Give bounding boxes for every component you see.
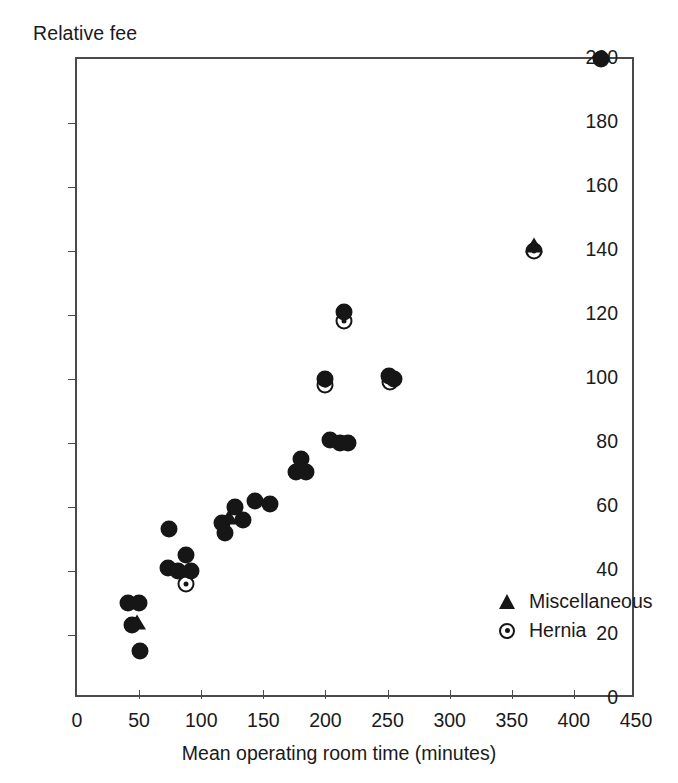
- data-point-filled-circle: [336, 303, 353, 320]
- data-point-filled-circle: [178, 547, 195, 564]
- y-axis-label: Relative fee: [33, 22, 137, 45]
- legend-label-miscellaneous: Miscellaneous: [529, 590, 653, 613]
- x-tick-label: 0: [72, 709, 83, 732]
- x-tick-label: 200: [309, 709, 342, 732]
- data-point-filled-circle: [131, 595, 148, 612]
- legend-item-miscellaneous: Miscellaneous: [495, 587, 653, 616]
- y-tick-label: 120: [585, 302, 618, 325]
- x-tick-label: 100: [185, 709, 218, 732]
- data-point-filled-circle: [593, 51, 610, 68]
- x-tick-mark: [325, 690, 326, 699]
- data-point-filled-circle: [261, 495, 278, 512]
- x-tick-label: 350: [495, 709, 528, 732]
- data-point-filled-circle: [216, 524, 233, 541]
- data-point-triangle: [220, 509, 238, 524]
- legend-label-hernia: Hernia: [529, 619, 586, 642]
- y-tick-label: 140: [585, 238, 618, 261]
- x-tick-mark: [263, 690, 264, 699]
- y-tick-label: 100: [585, 366, 618, 389]
- y-tick-label: 160: [585, 174, 618, 197]
- x-tick-mark: [388, 690, 389, 699]
- x-axis-label: Mean operating room time (minutes): [0, 742, 678, 765]
- data-point-filled-circle: [183, 563, 200, 580]
- y-tick-label: 40: [596, 558, 618, 581]
- y-tick-mark: [68, 507, 77, 508]
- data-point-filled-circle: [160, 521, 177, 538]
- circle-dot-marker-icon: [495, 623, 519, 639]
- y-tick-mark: [68, 379, 77, 380]
- x-tick-label: 250: [371, 709, 404, 732]
- data-point-filled-circle: [339, 435, 356, 452]
- y-tick-mark: [68, 635, 77, 636]
- plot-area: 020406080100120140160180200 050100150200…: [75, 57, 634, 697]
- triangle-marker-icon: [495, 594, 519, 609]
- data-point-filled-circle: [385, 371, 402, 388]
- x-tick-mark: [512, 690, 513, 699]
- x-tick-label: 400: [558, 709, 591, 732]
- y-tick-mark: [68, 251, 77, 252]
- y-tick-label: 80: [596, 430, 618, 453]
- x-tick-mark: [201, 690, 202, 699]
- scatter-plot-figure: Relative fee 020406080100120140160180200…: [0, 0, 678, 783]
- x-tick-label: 300: [433, 709, 466, 732]
- x-tick-mark: [574, 690, 575, 699]
- y-tick-mark: [68, 315, 77, 316]
- y-tick-mark: [68, 187, 77, 188]
- legend-item-hernia: Hernia: [495, 616, 653, 645]
- data-point-filled-circle: [317, 371, 334, 388]
- y-tick-label: 180: [585, 110, 618, 133]
- x-tick-mark: [450, 690, 451, 699]
- x-tick-label: 50: [128, 709, 150, 732]
- y-tick-label: 0: [607, 686, 618, 709]
- x-tick-label: 450: [620, 709, 653, 732]
- y-tick-mark: [68, 443, 77, 444]
- x-tick-mark: [139, 690, 140, 699]
- data-point-triangle: [525, 237, 543, 252]
- x-tick-label: 150: [247, 709, 280, 732]
- y-tick-label: 60: [596, 494, 618, 517]
- data-point-triangle: [128, 615, 146, 630]
- chart-legend: Miscellaneous Hernia: [495, 587, 653, 645]
- y-tick-mark: [68, 571, 77, 572]
- y-tick-mark: [68, 123, 77, 124]
- data-point-filled-circle: [297, 463, 314, 480]
- data-point-filled-circle: [132, 643, 149, 660]
